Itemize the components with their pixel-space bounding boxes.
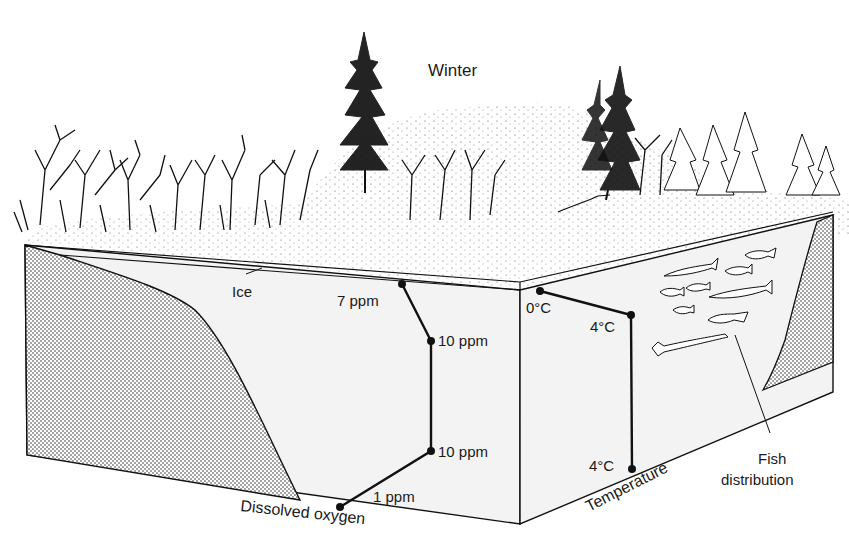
- oxygen-point: [398, 280, 406, 288]
- label-ice: Ice: [232, 283, 252, 300]
- title-winter: Winter: [428, 61, 477, 80]
- oxygen-label-7ppm: 7 ppm: [337, 292, 379, 309]
- temp-label-4c-bottom: 4°C: [589, 457, 614, 474]
- oxygen-label-10ppm-bottom: 10 ppm: [438, 443, 488, 460]
- oxygen-label-1ppm: 1 ppm: [373, 488, 415, 505]
- temperature-point: [536, 287, 544, 295]
- temperature-point: [627, 311, 635, 319]
- label-distribution: distribution: [721, 471, 794, 488]
- temperature-point: [628, 465, 636, 473]
- oxygen-point: [427, 337, 435, 345]
- temp-label-0c: 0°C: [526, 299, 551, 316]
- oxygen-point: [427, 447, 435, 455]
- label-fish: Fish: [758, 450, 786, 467]
- temp-label-4c-top: 4°C: [590, 318, 615, 335]
- lake-winter-diagram: Winter Ice: [0, 0, 849, 546]
- oxygen-label-10ppm-top: 10 ppm: [438, 332, 488, 349]
